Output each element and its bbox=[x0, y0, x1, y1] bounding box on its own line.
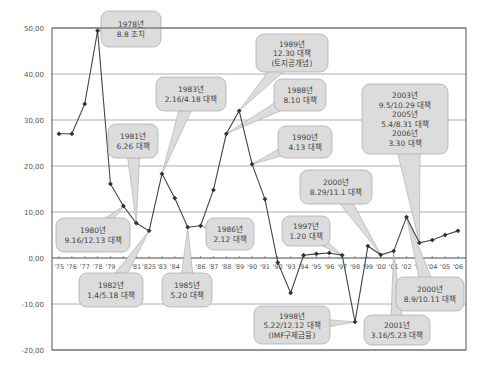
callout-text: 9.16/12.13 대책 bbox=[64, 235, 121, 245]
x-tick-label: '90 bbox=[247, 263, 257, 271]
callout-text: 12.30 대책 bbox=[273, 48, 311, 58]
line-chart: 50,0040,0030,0020,0010,000,00-10,00-20,0… bbox=[0, 0, 491, 370]
x-tick-label: '00 bbox=[376, 263, 386, 271]
data-point-marker bbox=[185, 225, 190, 230]
callout-text: 5.22/12.12 대책 bbox=[263, 320, 320, 330]
x-tick-label: '84 bbox=[170, 263, 180, 271]
callout-text: 5.20 대책 bbox=[170, 290, 203, 300]
data-point-marker bbox=[57, 131, 62, 136]
callout-text: (IMF구제금융) bbox=[269, 331, 316, 340]
callout-a1978: 1978년8.8 조치 bbox=[101, 11, 161, 47]
callout-a2001: 2001년3.16/5.23 대책 bbox=[364, 315, 430, 345]
callout-text: 2000년 bbox=[323, 177, 349, 187]
callout-text: 8.9/10.11 대책 bbox=[404, 294, 456, 304]
callout-a1989: 1989년12.30 대책(토지공개념) bbox=[256, 34, 328, 72]
x-tick-label: '89 bbox=[234, 263, 244, 271]
data-point-marker bbox=[82, 102, 87, 107]
x-tick-label: '06 bbox=[453, 263, 463, 271]
x-tick-label: '91 bbox=[260, 263, 270, 271]
callout-a1983: 1983년2.16/4.18 대책 bbox=[156, 77, 226, 111]
x-tick-label: '79 bbox=[105, 263, 115, 271]
y-tick-label: 20,00 bbox=[24, 163, 44, 171]
callout-text: 2.12 대책 bbox=[213, 234, 246, 244]
x-tick-label: '86 bbox=[196, 263, 206, 271]
x-tick-label: '83 bbox=[157, 263, 167, 271]
callout-a1986: 1986년2.12 대책 bbox=[206, 218, 254, 250]
callout-text: 1983년 bbox=[178, 84, 204, 94]
callout-text: 1981년 bbox=[120, 131, 146, 141]
x-tick-label: '76 bbox=[67, 263, 77, 271]
data-point-marker bbox=[198, 223, 203, 228]
callout-a2003: 2003년9.5/10.29 대책2005년5.4/8.31 대책2006년3.… bbox=[362, 84, 448, 154]
callout-text: 5.4/8.31 대책 bbox=[381, 119, 429, 129]
y-tick-label: 50,00 bbox=[24, 25, 44, 33]
data-point-marker bbox=[172, 196, 177, 201]
x-tick-label: '87 bbox=[208, 263, 218, 271]
data-point-marker bbox=[263, 197, 268, 202]
y-tick-label: -10,00 bbox=[21, 301, 44, 309]
callout-text: 1988년 bbox=[287, 85, 313, 95]
x-tick-label: '02 bbox=[401, 263, 411, 271]
data-point-marker bbox=[314, 251, 319, 256]
callout-text: 6.26 대책 bbox=[116, 141, 149, 151]
callout-a1998: 1998년5.22/12.12 대책(IMF구제금융) bbox=[254, 306, 330, 344]
x-tick-label: '95 bbox=[311, 263, 321, 271]
callout-a1997: 1997년1.20 대책 bbox=[282, 216, 330, 246]
x-axis: '75'76'77'78'79'81'825'83'84'85'86'87'88… bbox=[52, 256, 466, 271]
x-tick-label: '05 bbox=[440, 263, 450, 271]
callout-a1990: 1990년4.13 대책 bbox=[278, 126, 332, 158]
callout-text: 3.16/5.23 대책 bbox=[371, 330, 423, 340]
x-tick-label: '88 bbox=[221, 263, 231, 271]
data-point-marker bbox=[301, 253, 306, 258]
data-point-marker bbox=[404, 215, 409, 220]
callout-text: 2005년 bbox=[392, 109, 418, 119]
data-point-marker bbox=[456, 228, 461, 233]
y-tick-label: 0,00 bbox=[28, 255, 44, 263]
callout-text: 8.10 대책 bbox=[283, 95, 316, 105]
data-point-marker bbox=[211, 188, 216, 193]
callouts: 1978년8.8 조치1989년12.30 대책(토지공개념)1983년2.16… bbox=[56, 11, 464, 345]
callout-a1985: 1985년5.20 대책 bbox=[162, 273, 212, 307]
x-tick-label: '97 bbox=[337, 263, 347, 271]
x-tick-label: '75 bbox=[54, 263, 64, 271]
x-tick-label: '04 bbox=[427, 263, 437, 271]
data-point-marker bbox=[160, 171, 165, 176]
callout-text: 1997년 bbox=[293, 221, 319, 231]
y-axis: 50,0040,0030,0020,0010,000,00-10,00-20,0… bbox=[21, 25, 44, 355]
x-tick-label: '98 bbox=[350, 263, 360, 271]
callout-text: 3.30 대책 bbox=[388, 138, 421, 148]
data-point-marker bbox=[353, 320, 358, 325]
callout-a1980: 1980년9.16/12.13 대책 bbox=[56, 218, 130, 252]
y-tick-label: 10,00 bbox=[24, 209, 44, 217]
callout-a1981: 1981년6.26 대책 bbox=[108, 124, 158, 158]
y-tick-label: 30,00 bbox=[24, 117, 44, 125]
data-point-marker bbox=[108, 182, 113, 187]
x-tick-label: '96 bbox=[324, 263, 334, 271]
callout-text: 1998년 bbox=[279, 311, 305, 321]
data-point-marker bbox=[443, 233, 448, 238]
callout-text: 1982년 bbox=[98, 280, 124, 290]
callout-text: 1.20 대책 bbox=[289, 231, 322, 241]
callout-text: 1985년 bbox=[174, 280, 200, 290]
x-tick-label: '77 bbox=[80, 263, 90, 271]
callout-text: 1.4/5.18 대책 bbox=[87, 290, 135, 300]
data-point-marker bbox=[224, 131, 229, 136]
callout-text: 4.13 대책 bbox=[288, 142, 321, 152]
callout-text: 2000년 bbox=[417, 284, 443, 294]
x-tick-label: '93 bbox=[286, 263, 296, 271]
callout-a2000b: 2000년8.9/10.11 대책 bbox=[396, 277, 464, 311]
data-point-marker bbox=[95, 28, 100, 33]
callout-text: 1990년 bbox=[292, 132, 318, 142]
callout-text: 2006년 bbox=[392, 128, 418, 138]
callout-text: (토지공개념) bbox=[272, 58, 313, 68]
callout-text: 2001년 bbox=[384, 320, 410, 330]
x-tick-label: '825 bbox=[142, 263, 156, 271]
callout-text: 8.29/11.1 대책 bbox=[310, 187, 362, 197]
data-point-marker bbox=[430, 238, 435, 243]
data-point-marker bbox=[69, 131, 74, 136]
callout-text: 1989년 bbox=[279, 39, 305, 49]
y-tick-label: -20,00 bbox=[21, 347, 44, 355]
x-tick-label: '81 bbox=[131, 263, 141, 271]
callout-text: 9.5/10.29 대책 bbox=[379, 100, 431, 110]
callout-a1982: 1982년1.4/5.18 대책 bbox=[79, 273, 143, 307]
